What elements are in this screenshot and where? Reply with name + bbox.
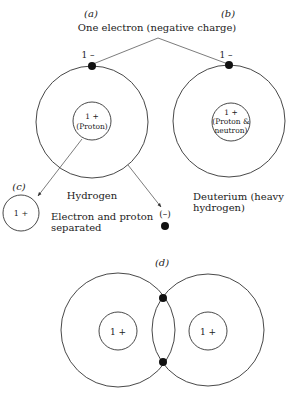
left-nucleus-charge: 1 + (110, 327, 126, 337)
proton-arrow (38, 139, 82, 196)
panel-a-label: (a) (84, 8, 98, 19)
separated-caption-1: Electron and proton (51, 211, 154, 222)
hydrogen-diagram: (a) (b) One electron (negative charge) 1… (0, 0, 287, 399)
caption-pointer-lines (93, 38, 228, 64)
deuterium-nucleus-desc-1: (Proton & (212, 117, 250, 126)
deuterium-nucleus-charge: 1 + (224, 108, 237, 117)
deuterium-name-1: Deuterium (heavy (193, 191, 284, 202)
hydrogen-electron-charge: 1 – (81, 50, 95, 60)
free-proton-charge: 1 + (14, 209, 28, 218)
panel-b-label: (b) (221, 8, 235, 19)
panel-c-label: (c) (12, 181, 26, 192)
free-electron (161, 222, 169, 230)
deuterium-electron-charge: 1 – (219, 50, 233, 60)
hydrogen-nucleus-desc: (Proton) (76, 122, 107, 131)
hydrogen-nucleus (73, 102, 111, 140)
panel-d-label: (d) (155, 257, 169, 268)
shared-electron-top (159, 294, 167, 302)
hydrogen-atom: 1 – 1 + (Proton) Hydrogen (36, 50, 148, 201)
free-electron-charge: (–) (159, 209, 171, 219)
separated-caption-2: separated (51, 222, 102, 233)
electron-arrow (128, 165, 161, 207)
deuterium-nucleus-desc-2: neutron) (215, 126, 248, 135)
deuterium-atom: 1 – 1 + (Proton & neutron) Deuterium (he… (173, 50, 285, 213)
right-nucleus-charge: 1 + (200, 327, 216, 337)
hydrogen-name: Hydrogen (67, 190, 118, 201)
hydrogen-electron (88, 62, 96, 70)
hydrogen-nucleus-charge: 1 + (85, 112, 98, 121)
deuterium-name-2: hydrogen) (193, 202, 245, 213)
hydrogen-molecule: (d) 1 + 1 + (61, 257, 264, 387)
shared-electron-caption: One electron (negative charge) (78, 22, 236, 33)
shared-electron-bottom (159, 358, 167, 366)
ionized-hydrogen: (c) 1 + Electron and proton separated (–… (3, 139, 171, 233)
deuterium-electron (225, 61, 233, 69)
